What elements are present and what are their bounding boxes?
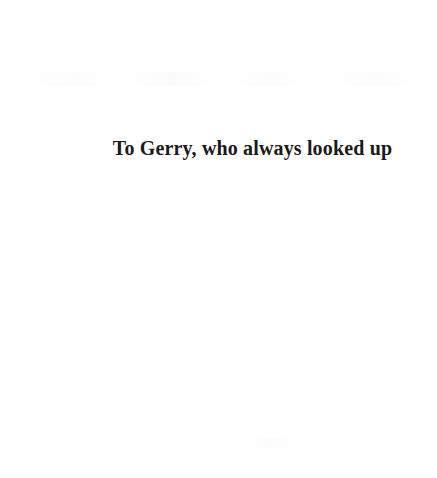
dedication-text: To Gerry, who always looked up (113, 136, 392, 160)
dedication-block: To Gerry, who always looked up (0, 136, 437, 160)
scan-artifact-bottom (0, 438, 437, 448)
dedication-page: To Gerry, who always looked up (0, 0, 437, 478)
scan-artifact-top (0, 72, 437, 86)
